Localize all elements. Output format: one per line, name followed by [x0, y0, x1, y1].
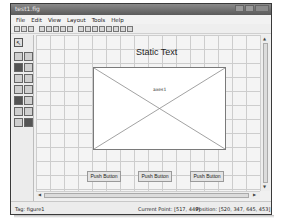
copy-icon[interactable] — [46, 26, 52, 32]
push-button-3[interactable]: Push Button — [190, 171, 224, 182]
run-icon[interactable] — [127, 26, 133, 32]
window-shadow — [14, 215, 274, 218]
guide-window: test1.fig File Edit View Layout Tools He… — [10, 3, 272, 215]
status-position: Position: [520, 347, 645, 453] — [196, 206, 270, 212]
object-browser-icon[interactable] — [120, 26, 126, 32]
axes-tool-icon[interactable] — [14, 107, 23, 116]
popup-menu-tool-icon[interactable] — [14, 85, 23, 94]
palette-grid — [14, 52, 33, 127]
toolbar — [11, 24, 271, 34]
toggle-button-tool-icon[interactable] — [14, 96, 23, 105]
menu-tools[interactable]: Tools — [92, 17, 106, 23]
new-file-icon[interactable] — [14, 26, 20, 32]
m-file-editor-icon[interactable] — [106, 26, 112, 32]
radio-button-tool-icon[interactable] — [14, 63, 23, 72]
axes-component[interactable]: axes1 — [93, 67, 226, 150]
menu-file[interactable]: File — [16, 17, 25, 23]
horizontal-scroll-thumb[interactable] — [44, 193, 249, 198]
menu-editor-icon[interactable] — [85, 26, 91, 32]
select-arrow-icon[interactable]: ↖ — [14, 38, 23, 47]
scroll-right-icon[interactable]: ▶ — [253, 192, 256, 197]
menu-view[interactable]: View — [48, 17, 61, 23]
vertical-scrollbar[interactable]: ▲ ▼ — [260, 35, 270, 191]
toolbar-editor-icon[interactable] — [99, 26, 105, 32]
title-bar[interactable]: test1.fig — [11, 4, 271, 15]
push-button-tool-icon[interactable] — [14, 52, 23, 61]
push-button-2[interactable]: Push Button — [138, 171, 172, 182]
scroll-up-icon[interactable]: ▲ — [263, 36, 266, 41]
menu-layout[interactable]: Layout — [67, 17, 86, 23]
menu-edit[interactable]: Edit — [31, 17, 42, 23]
listbox-tool-icon[interactable] — [24, 85, 33, 94]
static-text-component[interactable]: Static Text — [136, 47, 177, 57]
redo-icon[interactable] — [67, 26, 73, 32]
table-tool-icon[interactable] — [24, 96, 33, 105]
layout-canvas[interactable]: Static Text axes1 Push Button Push Butto… — [36, 35, 260, 191]
scroll-down-icon[interactable]: ▼ — [263, 184, 266, 189]
tab-order-icon[interactable] — [92, 26, 98, 32]
window-controls — [235, 5, 269, 13]
static-text-tool-icon[interactable] — [24, 74, 33, 83]
window-title: test1.fig — [15, 5, 40, 12]
maximize-button[interactable] — [245, 5, 254, 12]
undo-icon[interactable] — [60, 26, 66, 32]
property-inspector-icon[interactable] — [113, 26, 119, 32]
axes-label: axes1 — [152, 87, 167, 92]
minimize-button[interactable] — [235, 5, 244, 12]
checkbox-tool-icon[interactable] — [24, 63, 33, 72]
scroll-left-icon[interactable]: ◀ — [38, 192, 41, 197]
status-tag: Tag: figure1 — [15, 206, 44, 212]
status-bar: Tag: figure1 Current Point: [517, 449] P… — [11, 201, 271, 214]
menu-help[interactable]: Help — [111, 17, 124, 23]
slider-tool-icon[interactable] — [24, 52, 33, 61]
open-file-icon[interactable] — [21, 26, 27, 32]
close-button[interactable] — [255, 5, 269, 12]
panel-tool-icon[interactable] — [24, 107, 33, 116]
save-icon[interactable] — [28, 26, 34, 32]
axes-placeholder-cross — [94, 68, 225, 149]
menu-bar: File Edit View Layout Tools Help — [11, 15, 271, 24]
vertical-scroll-thumb[interactable] — [263, 43, 268, 183]
paste-icon[interactable] — [53, 26, 59, 32]
horizontal-scrollbar[interactable]: ◀ ▶ — [36, 191, 260, 199]
status-current-point: Current Point: [517, 449] — [138, 206, 200, 212]
cut-icon[interactable] — [39, 26, 45, 32]
activex-tool-icon[interactable] — [24, 118, 33, 127]
component-palette: ↖ — [12, 35, 34, 201]
edit-text-tool-icon[interactable] — [14, 74, 23, 83]
push-button-1[interactable]: Push Button — [87, 171, 121, 182]
align-icon[interactable] — [78, 26, 84, 32]
button-group-tool-icon[interactable] — [14, 118, 23, 127]
